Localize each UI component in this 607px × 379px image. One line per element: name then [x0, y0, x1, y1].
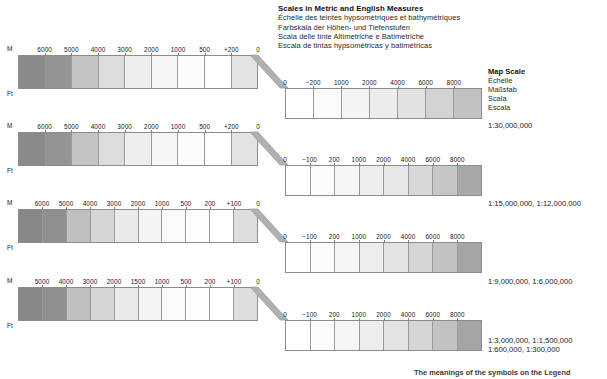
tick-mark: [369, 86, 370, 89]
map-scale-french: Échelle: [488, 76, 603, 85]
bathymetry-band: [360, 321, 385, 350]
tick-mark: [341, 86, 342, 89]
elevation-band-strip: [18, 209, 258, 243]
tick-label: 0: [283, 232, 287, 241]
elevation-band-strip: [18, 55, 258, 89]
elevation-band: [19, 56, 46, 88]
bathymetry-band: [454, 89, 481, 118]
tick-label: 0: [256, 199, 260, 208]
tick-mark: [42, 285, 43, 288]
tick-mark: [313, 86, 314, 89]
tick-mark: [398, 86, 399, 89]
bathymetry-band: [360, 243, 385, 272]
elevation-band: [46, 133, 73, 165]
tick-label: 0: [283, 310, 287, 319]
tick-mark: [334, 163, 335, 166]
tick-mark: [408, 240, 409, 243]
bathymetry-band: [342, 89, 370, 118]
bathymetry-band: [311, 243, 336, 272]
tick-mark: [310, 163, 311, 166]
elevation-band: [205, 56, 232, 88]
tick-mark: [114, 207, 115, 210]
tick-mark: [408, 163, 409, 166]
bathymetry-band-strip: [285, 165, 482, 196]
bathymetry-band: [458, 243, 482, 272]
tick-mark: [151, 130, 152, 133]
map-scale-spanish: Escala: [488, 103, 603, 112]
tick-mark: [98, 130, 99, 133]
tick-mark: [151, 53, 152, 56]
elevation-band: [125, 133, 152, 165]
tick-mark: [90, 285, 91, 288]
elevation-scale-bar: 500040003000200015001000500200+1000MFt: [18, 287, 258, 321]
tick-mark: [186, 207, 187, 210]
tick-mark: [359, 240, 360, 243]
elevation-band: [152, 133, 179, 165]
bathymetry-band: [458, 321, 482, 350]
tick-mark: [162, 207, 163, 210]
unit-label-feet: Ft: [7, 167, 13, 175]
unit-label-meters: M: [7, 199, 13, 207]
tick-label: 0: [256, 277, 260, 286]
elevation-band: [205, 133, 232, 165]
elevation-tick-labels: 600050004000300020001000500+2000: [18, 122, 258, 132]
elevation-band: [91, 288, 115, 320]
tick-mark: [454, 86, 455, 89]
bathymetry-band: [458, 166, 482, 195]
bathymetry-band: [433, 321, 458, 350]
tick-mark: [310, 240, 311, 243]
unit-label-meters: M: [7, 45, 13, 53]
tick-mark: [45, 130, 46, 133]
tick-mark: [138, 207, 139, 210]
elevation-band: [186, 210, 210, 242]
elevation-band: [72, 133, 99, 165]
elevation-band-strip: [18, 132, 258, 166]
bathymetry-band: [286, 166, 311, 195]
bathymetry-band: [409, 243, 434, 272]
bathymetry-tick-labels: 0−10020010002000400060008000: [285, 232, 482, 242]
tick-mark: [457, 318, 458, 321]
bathymetry-scale-bar: 0−10020010002000400060008000: [285, 165, 482, 196]
tick-mark: [334, 240, 335, 243]
page-title: Scales in Metric and English Measures: [278, 4, 518, 13]
unit-label-feet: Ft: [7, 244, 13, 252]
tick-mark: [433, 318, 434, 321]
elevation-band: [43, 210, 67, 242]
tick-label: 0: [283, 155, 287, 164]
tick-mark: [186, 285, 187, 288]
tick-mark: [45, 53, 46, 56]
map-scale-german: Maßstab: [488, 85, 603, 94]
elevation-band: [72, 56, 99, 88]
elevation-band: [178, 56, 205, 88]
elevation-band: [162, 210, 186, 242]
bathymetry-tick-labels: 0−20010002000400060008000: [285, 78, 482, 88]
bathymetry-band: [426, 89, 454, 118]
tick-mark: [231, 53, 232, 56]
scale-ratio-label: 1:3,000,000, 1:1,500,0001:600,000, 1:300…: [488, 336, 572, 355]
bathymetry-band: [335, 243, 360, 272]
tick-mark: [71, 130, 72, 133]
bathymetry-band-strip: [285, 320, 482, 351]
footer-note: The meanings of the symbols on the Legen…: [414, 368, 607, 377]
bathymetry-scale-bar: 0−10020010002000400060008000: [285, 242, 482, 273]
bathymetry-tick-labels: 0−10020010002000400060008000: [285, 155, 482, 165]
bathymetry-band: [384, 243, 409, 272]
elevation-tick-labels: 500040003000200015001000500200+1000: [18, 277, 258, 287]
elevation-band: [152, 56, 179, 88]
bathymetry-band: [433, 166, 458, 195]
tick-mark: [138, 285, 139, 288]
page-title-spanish: Escala de tintas hypsométricas y batimét…: [278, 41, 518, 50]
bathymetry-band: [384, 321, 409, 350]
bathymetry-band: [398, 89, 426, 118]
tick-mark: [384, 163, 385, 166]
elevation-band: [178, 133, 205, 165]
tick-mark: [205, 53, 206, 56]
elevation-band: [19, 210, 43, 242]
bathymetry-band: [286, 243, 311, 272]
bathymetry-band: [360, 166, 385, 195]
tick-mark: [42, 207, 43, 210]
tick-mark: [210, 285, 211, 288]
elevation-tick-labels: 600050004000300020001000500+2000: [18, 45, 258, 55]
bathymetry-band: [286, 321, 311, 350]
tick-mark: [334, 318, 335, 321]
